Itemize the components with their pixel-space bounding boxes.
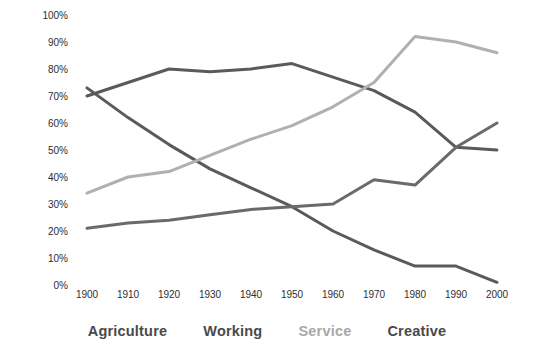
y-axis-tick-labels: 100%90%80%70%60%50%40%30%20%10%0% bbox=[42, 10, 68, 291]
line-chart-plot: 100%90%80%70%60%50%40%30%20%10%0% 190019… bbox=[0, 0, 534, 354]
y-tick-label: 70% bbox=[48, 91, 68, 102]
x-tick-label: 1970 bbox=[363, 289, 386, 300]
legend-item-working[interactable]: Working bbox=[203, 323, 262, 339]
x-tick-label: 1900 bbox=[76, 289, 99, 300]
series-line-agriculture[interactable] bbox=[87, 88, 497, 282]
data-series-lines bbox=[87, 37, 497, 283]
legend-item-service[interactable]: Service bbox=[298, 323, 351, 339]
x-axis-tick-labels: 1900191019201930194019501960197019801990… bbox=[76, 289, 509, 300]
y-tick-label: 50% bbox=[48, 145, 68, 156]
chart-legend: Agriculture Working Service Creative bbox=[0, 318, 534, 344]
y-tick-label: 20% bbox=[48, 226, 68, 237]
x-tick-label: 1980 bbox=[404, 289, 427, 300]
series-line-service[interactable] bbox=[87, 37, 497, 194]
chart-container: 100%90%80%70%60%50%40%30%20%10%0% 190019… bbox=[0, 0, 534, 354]
x-tick-label: 1910 bbox=[117, 289, 140, 300]
y-tick-label: 0% bbox=[54, 280, 69, 291]
x-tick-label: 2000 bbox=[486, 289, 509, 300]
y-tick-label: 30% bbox=[48, 199, 68, 210]
y-tick-label: 60% bbox=[48, 118, 68, 129]
y-tick-label: 100% bbox=[42, 10, 68, 21]
x-tick-label: 1960 bbox=[322, 289, 345, 300]
legend-item-agriculture[interactable]: Agriculture bbox=[88, 323, 168, 339]
x-tick-label: 1930 bbox=[199, 289, 222, 300]
series-line-working[interactable] bbox=[87, 64, 497, 150]
y-tick-label: 10% bbox=[48, 253, 68, 264]
legend-item-creative[interactable]: Creative bbox=[387, 323, 446, 339]
x-tick-label: 1990 bbox=[445, 289, 468, 300]
x-tick-label: 1950 bbox=[281, 289, 304, 300]
y-tick-label: 90% bbox=[48, 37, 68, 48]
y-tick-label: 40% bbox=[48, 172, 68, 183]
x-tick-label: 1940 bbox=[240, 289, 263, 300]
y-tick-label: 80% bbox=[48, 64, 68, 75]
x-tick-label: 1920 bbox=[158, 289, 181, 300]
